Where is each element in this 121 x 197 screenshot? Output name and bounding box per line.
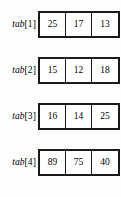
array-cells: 25 17 13 bbox=[38, 11, 120, 38]
array-cell: 12 bbox=[66, 59, 92, 82]
array-cells: 16 14 25 bbox=[38, 103, 120, 130]
array-row: tab[2] 15 12 18 bbox=[0, 55, 121, 86]
row-label-index: [1] bbox=[25, 19, 36, 29]
array-cells: 15 12 18 bbox=[38, 57, 120, 84]
row-label-variable: tab bbox=[12, 19, 24, 29]
array-cell: 18 bbox=[92, 59, 118, 82]
array-cell: 75 bbox=[66, 151, 92, 174]
row-label-variable: tab bbox=[12, 65, 24, 75]
array-row: tab[3] 16 14 25 bbox=[0, 101, 121, 132]
row-label-variable: tab bbox=[12, 157, 24, 167]
row-label: tab[4] bbox=[0, 158, 38, 168]
array-cells: 89 75 40 bbox=[38, 149, 120, 176]
row-label-index: [4] bbox=[25, 157, 36, 167]
array-cell: 17 bbox=[66, 13, 92, 36]
array-cell: 25 bbox=[40, 13, 66, 36]
row-label-index: [2] bbox=[25, 65, 36, 75]
array-cell: 13 bbox=[92, 13, 118, 36]
array-cell: 40 bbox=[92, 151, 118, 174]
array-cell: 14 bbox=[66, 105, 92, 128]
array-cell: 89 bbox=[40, 151, 66, 174]
row-label-variable: tab bbox=[12, 111, 24, 121]
row-label: tab[2] bbox=[0, 66, 38, 76]
row-label: tab[3] bbox=[0, 112, 38, 122]
array-cell: 15 bbox=[40, 59, 66, 82]
array-row: tab[4] 89 75 40 bbox=[0, 147, 121, 178]
row-label-index: [3] bbox=[25, 111, 36, 121]
array-cell: 25 bbox=[92, 105, 118, 128]
row-label: tab[1] bbox=[0, 20, 38, 30]
array-cell: 16 bbox=[40, 105, 66, 128]
array-diagram: tab[1] 25 17 13 tab[2] 15 12 18 tab[3] 1… bbox=[0, 0, 121, 197]
array-row: tab[1] 25 17 13 bbox=[0, 9, 121, 40]
